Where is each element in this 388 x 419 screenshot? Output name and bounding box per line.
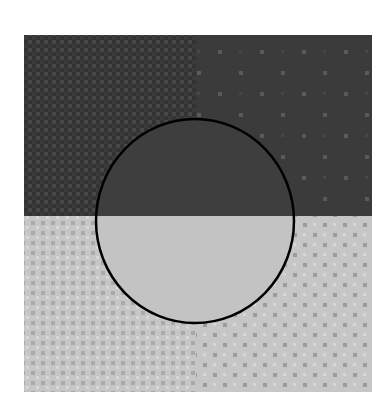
illusion-figure	[0, 0, 388, 419]
figure-canvas	[0, 0, 388, 419]
